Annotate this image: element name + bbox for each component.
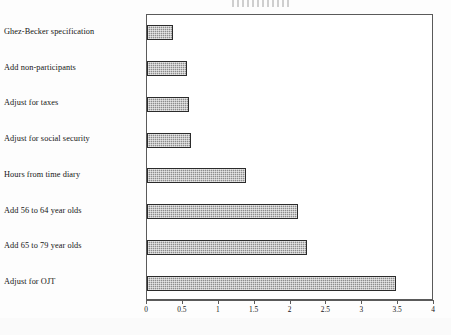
- x-axis-tick: [254, 300, 255, 304]
- bar: [147, 61, 187, 76]
- category-label: Add 65 to 79 year olds: [4, 241, 134, 251]
- x-axis-tick-label: 1.5: [249, 305, 258, 314]
- category-label: Adjust for OJT: [4, 277, 134, 287]
- x-axis-tick-label: 4: [431, 305, 435, 314]
- x-axis-tick-label: 2.5: [321, 305, 330, 314]
- bars-container: [147, 15, 432, 299]
- x-axis-tick: [182, 300, 183, 304]
- bar: [147, 204, 298, 219]
- plot-frame: [146, 14, 433, 300]
- x-axis-tick: [361, 300, 362, 304]
- bar-chart-figure: Ghez-Becker specificationAdd non-partici…: [0, 0, 451, 335]
- scan-artifact-band: [0, 318, 451, 335]
- category-label: Adjust for taxes: [4, 98, 134, 108]
- x-axis-tick: [146, 300, 147, 304]
- category-label: Ghez-Becker specification: [4, 27, 134, 37]
- bar: [147, 25, 173, 40]
- x-axis-tick: [325, 300, 326, 304]
- x-axis-tick-label: 1: [216, 305, 220, 314]
- x-axis-tick: [397, 300, 398, 304]
- category-label: Add 56 to 64 year olds: [4, 206, 134, 216]
- x-axis: 00.511.522.533.54: [146, 300, 433, 301]
- cropped-title-remnant: [232, 0, 290, 7]
- category-label: Adjust for social security: [4, 134, 134, 144]
- x-axis-tick-label: 3: [359, 305, 363, 314]
- bar: [147, 133, 191, 148]
- category-axis-labels: Ghez-Becker specificationAdd non-partici…: [0, 14, 143, 300]
- category-label: Add non-participants: [4, 63, 134, 73]
- x-axis-tick-label: 2: [288, 305, 292, 314]
- category-label: Hours from time diary: [4, 170, 134, 180]
- x-axis-tick: [290, 300, 291, 304]
- x-axis-tick-label: 0: [144, 305, 148, 314]
- x-axis-tick: [218, 300, 219, 304]
- bar: [147, 97, 189, 112]
- bar: [147, 168, 246, 183]
- x-axis-tick: [433, 300, 434, 304]
- bar: [147, 276, 396, 291]
- bar: [147, 240, 307, 255]
- x-axis-tick-label: 3.5: [393, 305, 402, 314]
- x-axis-tick-label: 0.5: [177, 305, 186, 314]
